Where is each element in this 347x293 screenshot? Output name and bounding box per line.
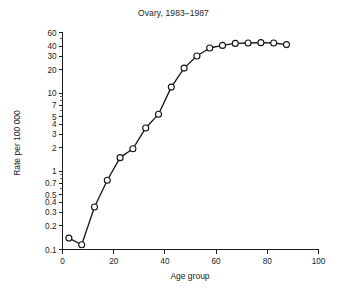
- data-point-marker: [194, 53, 200, 59]
- x-axis-label: Age group: [62, 271, 318, 281]
- y-tick-label: 7: [52, 101, 57, 110]
- y-tick-label: 60: [47, 29, 57, 38]
- y-tick-label: 1: [52, 167, 57, 176]
- x-tick-label: 80: [263, 257, 273, 266]
- y-tick-label: 2: [52, 144, 57, 153]
- y-tick-label: 3: [52, 130, 57, 139]
- data-point-marker: [66, 235, 72, 241]
- data-point-marker: [258, 40, 264, 46]
- data-point-marker: [117, 155, 123, 161]
- y-tick-label: 40: [47, 42, 57, 51]
- y-tick-label: 0.4: [45, 198, 57, 207]
- x-tick-label: 60: [212, 257, 222, 266]
- y-tick-label: 0.1: [45, 246, 57, 255]
- x-axis: 020406080100: [60, 250, 326, 266]
- y-tick-label: 20: [47, 66, 57, 75]
- data-point-marker: [181, 65, 187, 71]
- data-point-marker: [104, 177, 110, 183]
- data-point-marker: [156, 111, 162, 117]
- data-series-markers: [66, 40, 290, 248]
- x-tick-label: 0: [60, 257, 65, 266]
- x-tick-label: 20: [109, 257, 119, 266]
- data-point-marker: [284, 42, 290, 48]
- data-point-marker: [207, 45, 213, 51]
- data-series-line: [69, 43, 287, 245]
- data-point-marker: [245, 40, 251, 46]
- y-tick-label: 4: [52, 120, 57, 129]
- y-tick-label: 0.3: [45, 208, 57, 217]
- data-point-marker: [92, 204, 98, 210]
- y-tick-label: 0.2: [45, 222, 57, 231]
- y-tick-label: 10: [47, 89, 57, 98]
- data-point-marker: [130, 146, 136, 152]
- x-tick-label: 40: [160, 257, 170, 266]
- plot-area: 60403020107543210.70.50.40.30.20.1 02040…: [0, 0, 347, 293]
- y-axis: 60403020107543210.70.50.40.30.20.1: [45, 29, 62, 255]
- data-point-marker: [143, 125, 149, 131]
- y-axis-label: Rate per 100 000: [12, 83, 22, 203]
- data-point-marker: [220, 42, 226, 48]
- data-point-marker: [232, 40, 238, 46]
- y-tick-label: 0.7: [45, 179, 57, 188]
- x-tick-label: 100: [312, 257, 326, 266]
- chart-figure: Ovary, 1983–1987 60403020107543210.70.50…: [0, 0, 347, 293]
- data-point-marker: [168, 84, 174, 90]
- y-tick-label: 30: [47, 52, 57, 61]
- data-point-marker: [271, 40, 277, 46]
- data-point-marker: [79, 242, 85, 248]
